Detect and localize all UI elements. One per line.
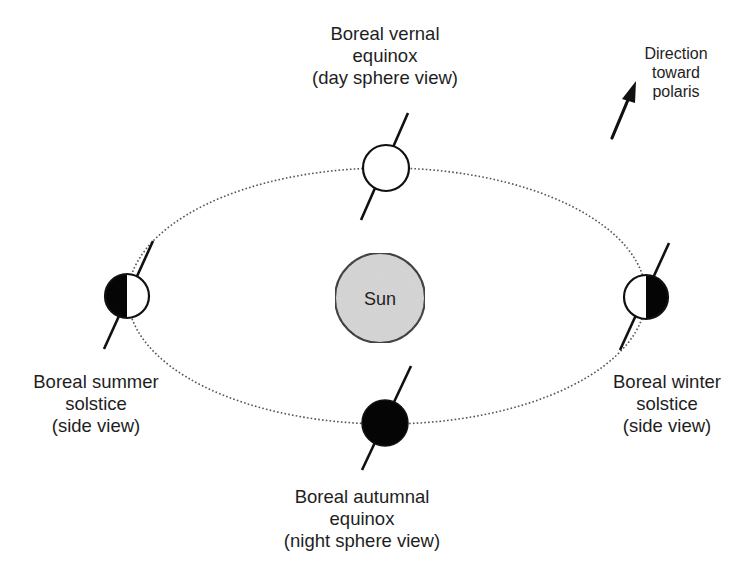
label-line: equinox — [284, 508, 440, 530]
label-summer-solstice: Boreal summer solstice (side view) — [33, 371, 158, 437]
label-line: solstice — [613, 393, 721, 415]
label-vernal-equinox: Boreal vernal equinox (day sphere view) — [312, 23, 458, 89]
label-line: Boreal vernal — [312, 23, 458, 45]
label-line: equinox — [312, 45, 458, 67]
label-line: Boreal autumnal — [284, 486, 440, 508]
label-line: Boreal winter — [613, 371, 721, 393]
label-line: (side view) — [33, 415, 158, 437]
earth-summer-solstice — [100, 241, 153, 349]
earth-sphere-dark — [362, 400, 408, 446]
earth-sphere-lit — [363, 145, 409, 191]
label-line: Direction — [644, 44, 707, 63]
label-polaris-direction: Direction toward polaris — [644, 44, 707, 101]
label-autumnal-equinox: Boreal autumnal equinox (night sphere vi… — [284, 486, 440, 552]
label-line: (day sphere view) — [312, 67, 458, 89]
sun-label: Sun — [364, 289, 396, 309]
arrow-up-right-icon — [612, 81, 636, 138]
label-line: toward — [644, 63, 707, 82]
label-line: polaris — [644, 82, 707, 101]
label-line: Boreal summer — [33, 371, 158, 393]
sun: Sun — [335, 253, 425, 343]
earth-winter-solstice — [620, 243, 673, 350]
label-winter-solstice: Boreal winter solstice (side view) — [613, 371, 721, 437]
label-line: (side view) — [613, 415, 721, 437]
label-line: (night sphere view) — [284, 530, 440, 552]
label-line: solstice — [33, 393, 158, 415]
earth-vernal-equinox — [361, 113, 409, 220]
orbit-diagram: Sun — [0, 0, 754, 582]
earth-autumnal-equinox — [362, 366, 411, 470]
